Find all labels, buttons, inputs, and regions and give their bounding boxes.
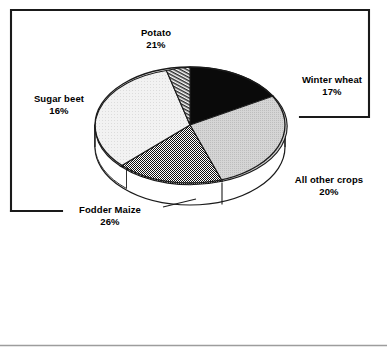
slice-label-potato-pct: 21% <box>116 39 196 51</box>
slice-label-all-other-crops-name: All other crops <box>295 174 364 185</box>
slice-label-potato: Potato 21% <box>116 27 196 51</box>
slice-label-potato-name: Potato <box>141 27 171 38</box>
slice-label-winter-wheat-name: Winter wheat <box>302 74 362 85</box>
slice-label-fodder-maize-name: Fodder Maize <box>79 204 141 215</box>
slice-label-all-other-crops-pct: 20% <box>280 186 378 198</box>
slice-label-fodder-maize-pct: 26% <box>60 216 160 228</box>
slice-label-fodder-maize: Fodder Maize 26% <box>60 204 160 228</box>
slice-label-winter-wheat-pct: 17% <box>286 86 378 98</box>
slice-label-sugar-beet: Sugar beet 16% <box>16 93 102 117</box>
slice-label-winter-wheat: Winter wheat 17% <box>286 74 378 98</box>
slice-label-sugar-beet-name: Sugar beet <box>34 93 84 104</box>
chart-canvas: Potato 21% Winter wheat 17% Sugar beet 1… <box>0 0 387 350</box>
slice-label-sugar-beet-pct: 16% <box>16 105 102 117</box>
slice-label-all-other-crops: All other crops 20% <box>280 174 378 198</box>
